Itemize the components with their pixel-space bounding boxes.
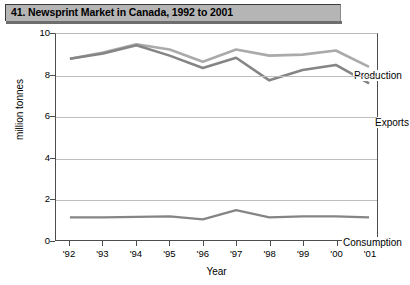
y-axis-tick-labels: 0246810 (20, 33, 50, 241)
y-tick-mark (50, 33, 55, 34)
y-tick-label: 2 (24, 194, 50, 204)
x-tick-mark (203, 241, 204, 246)
y-tick-mark (50, 75, 55, 76)
x-tick-label: '97 (221, 248, 251, 259)
gridline (56, 200, 377, 201)
series-label-exports: Exports (374, 117, 410, 128)
line-consumption (70, 210, 369, 219)
y-axis-title: million tonnes (14, 50, 25, 170)
gridline (56, 159, 377, 160)
x-tick-label: '92 (54, 248, 84, 259)
y-tick-label: 0 (24, 236, 50, 246)
x-tick-mark (69, 241, 70, 246)
x-tick-mark (370, 241, 371, 246)
y-tick-mark (50, 199, 55, 200)
x-tick-mark (169, 241, 170, 246)
title-bar-shadow (6, 21, 342, 24)
x-tick-mark (136, 241, 137, 246)
x-tick-mark (337, 241, 338, 246)
x-tick-mark (102, 241, 103, 246)
x-tick-label: '99 (288, 248, 318, 259)
x-tick-mark (270, 241, 271, 246)
x-tick-label: '01 (355, 248, 385, 259)
x-tick-label: '98 (255, 248, 285, 259)
x-axis-title: Year (55, 266, 378, 277)
y-tick-label: 8 (24, 70, 50, 80)
y-tick-mark (50, 241, 55, 242)
x-tick-label: '00 (322, 248, 352, 259)
x-tick-label: '96 (188, 248, 218, 259)
y-tick-label: 10 (24, 28, 50, 38)
gridline (56, 117, 377, 118)
y-tick-mark (50, 116, 55, 117)
x-tick-label: '95 (154, 248, 184, 259)
x-tick-mark (303, 241, 304, 246)
page-title: 41. Newsprint Market in Canada, 1992 to … (11, 6, 233, 18)
x-tick-mark (236, 241, 237, 246)
x-axis-ticks: '92'93'94'95'96'97'98'99'00'01 (55, 241, 378, 247)
x-tick-label: '94 (121, 248, 151, 259)
plot-area: Production Exports Consumption (55, 33, 378, 241)
y-tick-label: 6 (24, 111, 50, 121)
gridline (56, 76, 377, 77)
y-tick-mark (50, 158, 55, 159)
x-tick-label: '93 (87, 248, 117, 259)
series-lines (56, 34, 377, 240)
y-tick-label: 4 (24, 153, 50, 163)
